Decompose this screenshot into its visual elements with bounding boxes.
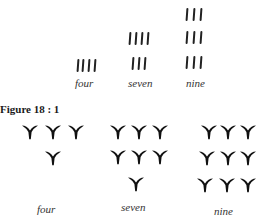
figure-caption: Figure 18 : 1 [0, 103, 59, 115]
tally-label-seven: seven [128, 77, 152, 89]
wedge-icon [201, 124, 217, 140]
wedge-icon [128, 176, 144, 192]
wedge-icon [240, 177, 256, 193]
wedge-icon [240, 150, 256, 166]
stroke-icon [132, 57, 135, 70]
wedge-icon [22, 124, 38, 140]
tally-label-nine: nine [186, 77, 205, 89]
wedge-icon [240, 124, 256, 140]
wedge-icon [45, 124, 61, 140]
stroke-icon [193, 8, 196, 21]
wedge-icon [68, 124, 84, 140]
stroke-icon [186, 31, 189, 44]
stroke-icon [200, 56, 203, 69]
wedge-icon [152, 149, 168, 165]
stroke-icon [94, 59, 97, 72]
wedge-icon [199, 150, 215, 166]
stroke-icon [138, 57, 141, 70]
stroke-icon [200, 31, 203, 44]
stroke-icon [129, 32, 132, 45]
wedge-icon [131, 149, 147, 165]
stroke-icon [82, 59, 85, 72]
stroke-icon [144, 57, 147, 70]
stroke-icon [193, 31, 196, 44]
wedge-icon [197, 177, 213, 193]
stroke-icon [200, 8, 203, 21]
wedge-icon [110, 124, 126, 140]
stroke-icon [88, 59, 91, 72]
wedge-icon [131, 124, 147, 140]
stroke-icon [77, 59, 80, 72]
tally-label-four: four [75, 77, 93, 89]
wedge-icon [219, 177, 235, 193]
wedge-icon [220, 124, 236, 140]
wedge-icon [110, 149, 126, 165]
wedge-icon [45, 150, 61, 166]
stroke-icon [141, 32, 144, 45]
stroke-icon [186, 56, 189, 69]
cuneiform-label-four: four [37, 203, 55, 215]
cuneiform-label-nine: nine [214, 205, 233, 217]
cuneiform-label-seven: seven [121, 201, 145, 213]
stroke-icon [135, 32, 138, 45]
wedge-icon [220, 150, 236, 166]
stroke-icon [147, 32, 150, 45]
stroke-icon [193, 56, 196, 69]
stroke-icon [186, 8, 189, 21]
wedge-icon [152, 124, 168, 140]
